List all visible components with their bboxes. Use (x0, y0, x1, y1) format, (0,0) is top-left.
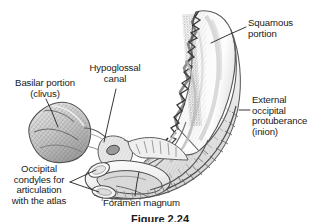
anatomy-figure: Squamous portionExternal occipital protu… (0, 0, 320, 222)
basilar-portion-clivus-shape (26, 98, 96, 168)
label-foramen-magnum: Foramen magnum (103, 198, 205, 209)
label-basilar-portion-clivus: Basilar portion (clivus) (2, 78, 88, 99)
jugular-process (128, 138, 188, 161)
leader-hypoglossal (104, 89, 116, 142)
figure-caption: Figure 2.24 (0, 213, 320, 222)
label-external-occipital-protuberance: External occipital protuberance (inion) (252, 95, 320, 137)
label-occipital-condyles: Occipital condyles for articulation with… (1, 164, 77, 206)
label-squamous-portion: Squamous portion (248, 18, 318, 39)
label-hypoglossal-canal: Hypoglossal canal (79, 63, 151, 84)
